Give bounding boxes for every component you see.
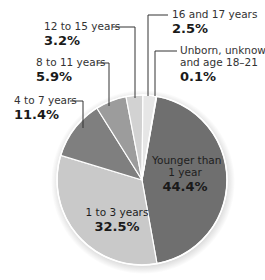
label-percent: 3.2%	[44, 34, 120, 49]
label-8-to-11: 8 to 11 years 5.9%	[36, 56, 106, 85]
label-4-to-7: 4 to 7 years 11.4%	[14, 94, 77, 123]
label-category: 1 to 3 years	[84, 206, 150, 218]
label-1-to-3: 1 to 3 years 32.5%	[84, 206, 150, 235]
label-category: 4 to 7 years	[14, 94, 77, 106]
leader-line-16-17	[148, 15, 168, 96]
label-category-line2: 1 year	[152, 166, 218, 178]
label-percent: 32.5%	[84, 220, 150, 235]
label-category-line2: and age 18–21	[180, 56, 265, 68]
label-category: 16 and 17 years	[172, 8, 257, 20]
label-percent: 44.4%	[152, 180, 218, 195]
label-category: 12 to 15 years	[44, 20, 120, 32]
label-12-to-15: 12 to 15 years 3.2%	[44, 20, 120, 49]
label-percent: 11.4%	[14, 108, 77, 123]
label-16-and-17: 16 and 17 years 2.5%	[172, 8, 257, 37]
label-category: 8 to 11 years	[36, 56, 106, 68]
label-unborn: Unborn, unknown, and age 18–21 0.1%	[180, 44, 265, 85]
label-percent: 0.1%	[180, 70, 265, 85]
label-category-line1: Younger than	[152, 154, 218, 166]
label-percent: 5.9%	[36, 70, 106, 85]
pie-chart	[0, 0, 265, 280]
leader-line-unborn	[155, 51, 177, 96]
label-category-line1: Unborn, unknown,	[180, 44, 265, 56]
label-younger-than-1: Younger than 1 year 44.4%	[152, 154, 218, 195]
label-percent: 2.5%	[172, 22, 257, 37]
